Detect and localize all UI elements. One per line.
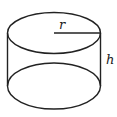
height-label: h: [106, 52, 114, 67]
radius-label: r: [59, 17, 66, 32]
cylinder-diagram: r h: [0, 0, 117, 117]
bottom-ellipse-front: [8, 86, 101, 109]
bottom-ellipse-back: [8, 63, 101, 86]
